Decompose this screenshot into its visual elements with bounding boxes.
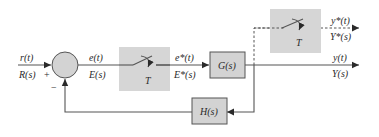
- feedback-arrowhead: [227, 109, 234, 116]
- sampled-error-s-label: E*(s): [173, 69, 196, 81]
- block-diagram: r(t) R(s) + − e(t) E(s) T e*(t) E*(s) G(…: [0, 0, 379, 137]
- forward-block-label: G(s): [218, 60, 236, 72]
- plus-sign: +: [44, 69, 50, 80]
- input-time-label: r(t): [20, 52, 34, 64]
- sampled-output-s-label: Y*(s): [330, 31, 352, 43]
- input-s-label: R(s): [18, 69, 36, 81]
- output-s-label: Y(s): [332, 68, 349, 80]
- minus-sign: −: [51, 82, 57, 93]
- summing-junction: [52, 52, 78, 78]
- sampled-output-time-label: y*(t): [330, 15, 351, 27]
- sampled-error-time-label: e*(t): [175, 52, 195, 64]
- error-time-label: e(t): [89, 52, 104, 64]
- output-time-label: y(t): [332, 52, 348, 64]
- sampler-1: T: [119, 47, 170, 91]
- sampled-output-arrowhead: [352, 25, 359, 32]
- feedback-block-label: H(s): [199, 106, 218, 118]
- sampler-2: T: [254, 9, 321, 53]
- error-s-label: E(s): [88, 69, 106, 81]
